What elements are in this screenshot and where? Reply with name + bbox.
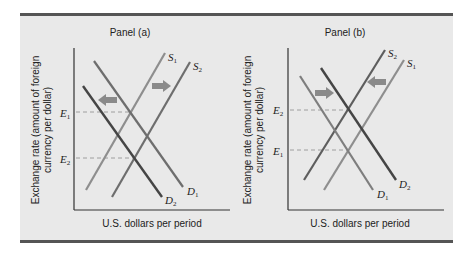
panel-b-e1-label: E1 [272, 145, 284, 159]
panel-a-xlabel: U.S. dollars per period [102, 218, 202, 229]
panel-a-s1-curve [86, 53, 165, 190]
panel-b-e2-label: E2 [272, 104, 284, 118]
panel-b-ylabel: Exchange rate (amount of foreign currenc… [242, 56, 265, 204]
panel-a-ylabel-line1: Exchange rate (amount of foreign [30, 56, 41, 204]
panel-a-s1-label: S1 [168, 51, 178, 65]
panel-b-xlabel: U.S. dollars per period [310, 218, 410, 229]
panel-b-s1-label: S1 [407, 57, 417, 71]
panel-b-title: Panel (b) [325, 27, 366, 38]
panel-b-ylabel-line2: currency per dollar) [254, 87, 265, 173]
diagram-canvas: Panel (a) Exchange rate (amount of forei… [0, 0, 475, 256]
panel-b-supply-shift-left-arrow-icon [367, 76, 386, 88]
panel-b: Panel (b) Exchange rate (amount of forei… [242, 27, 444, 229]
panel-a-d1-label: D1 [186, 185, 199, 199]
panel-a-e2-label: E2 [59, 153, 71, 167]
panel-b-s2-label: S2 [388, 47, 398, 61]
panel-a-demand-shift-left-arrow-icon [98, 94, 117, 106]
panel-a: Panel (a) Exchange rate (amount of forei… [30, 27, 230, 229]
panel-a-s2-label: S2 [193, 60, 203, 74]
panel-a-d1-curve [94, 61, 183, 187]
panel-b-ylabel-line1: Exchange rate (amount of foreign [242, 56, 253, 204]
panel-a-ylabel: Exchange rate (amount of foreign currenc… [30, 56, 53, 204]
panel-b-s2-curve [304, 50, 385, 180]
panel-b-demand-shift-right-arrow-icon [315, 87, 334, 99]
panel-a-title: Panel (a) [110, 27, 151, 38]
panel-a-s2-curve [112, 62, 190, 197]
panel-a-ylabel-line2: currency per dollar) [42, 87, 53, 173]
panel-b-d1-label: D1 [376, 188, 389, 202]
panel-b-s1-curve [324, 60, 404, 190]
panel-b-d2-label: D2 [398, 178, 411, 192]
panel-a-e1-label: E1 [59, 107, 71, 121]
panel-a-d2-label: D2 [164, 194, 177, 208]
panel-a-supply-shift-right-arrow-icon [152, 80, 171, 92]
